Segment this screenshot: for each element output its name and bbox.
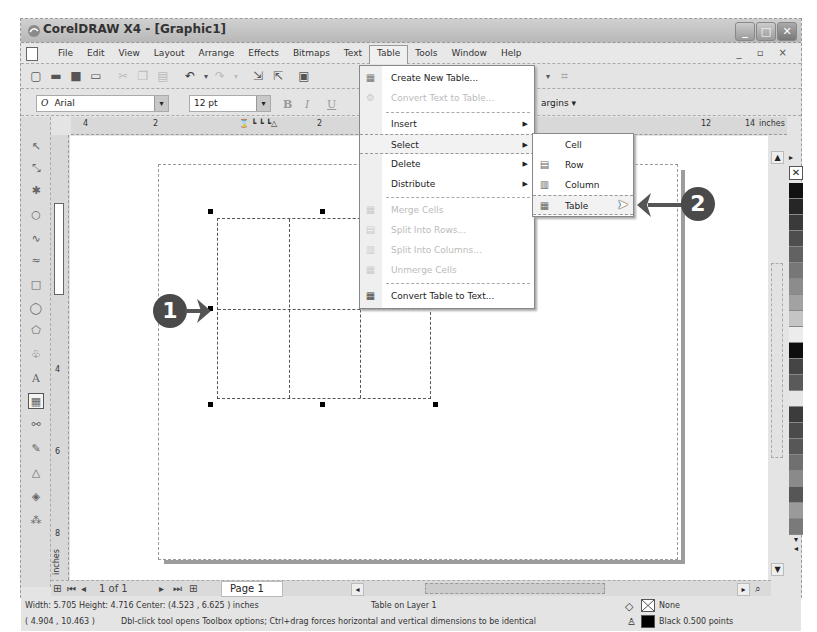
- menu-table[interactable]: Table: [369, 45, 408, 64]
- color-swatch[interactable]: [789, 215, 803, 231]
- palette-scroll-right-icon[interactable]: ▸: [789, 153, 803, 162]
- palette-expand-icon[interactable]: ◂: [789, 544, 803, 553]
- vertical-scrollbar[interactable]: ▲ ▼: [771, 151, 785, 579]
- rectangle-tool-icon[interactable]: □: [28, 277, 44, 293]
- menu-effects[interactable]: Effects: [241, 48, 286, 64]
- undo-icon[interactable]: ↶: [183, 70, 197, 83]
- font-name-dropdown[interactable]: OArial ▾: [36, 95, 169, 112]
- no-color-swatch[interactable]: ✕: [789, 166, 803, 180]
- undo-dropdown-icon[interactable]: ▾: [199, 70, 213, 83]
- color-swatch[interactable]: [789, 391, 803, 407]
- menu-edit[interactable]: Edit: [80, 48, 111, 64]
- new-icon[interactable]: ▢: [29, 70, 43, 83]
- margins-dropdown[interactable]: argins ▾: [541, 98, 576, 108]
- color-swatch[interactable]: [789, 407, 803, 423]
- export-icon[interactable]: ⇱: [271, 70, 285, 83]
- crop-tool-icon[interactable]: ✱: [28, 183, 44, 199]
- color-swatch[interactable]: [789, 455, 803, 471]
- menu-item-unmerge-cells[interactable]: ▦ Unmerge Cells: [360, 260, 534, 280]
- italic-button[interactable]: I: [305, 98, 309, 111]
- selection-handle[interactable]: [433, 402, 438, 407]
- scroll-left-icon[interactable]: ◂: [351, 583, 364, 596]
- color-swatch[interactable]: [789, 471, 803, 487]
- outline-color-swatch[interactable]: [641, 615, 655, 628]
- redo-dropdown-icon[interactable]: ▾: [229, 70, 243, 83]
- selection-handle[interactable]: [208, 402, 213, 407]
- prev-page-icon[interactable]: ◂: [81, 583, 86, 594]
- menu-item-split-into-rows[interactable]: ▤ Split Into Rows...: [360, 220, 534, 240]
- table-tool-icon[interactable]: ▦: [28, 393, 44, 409]
- chevron-down-icon[interactable]: ▾: [154, 96, 168, 111]
- vertical-scroll-thumb[interactable]: [771, 263, 783, 458]
- app-launcher-icon[interactable]: ▣: [297, 70, 311, 83]
- document-icon[interactable]: [26, 47, 38, 61]
- menu-tools[interactable]: Tools: [408, 48, 444, 64]
- scroll-up-icon[interactable]: ▲: [771, 151, 784, 164]
- color-swatch[interactable]: [789, 487, 803, 503]
- zoom-dropdown-icon[interactable]: ▾: [541, 70, 555, 83]
- page-tab[interactable]: Page 1: [221, 581, 283, 597]
- print-icon[interactable]: ▭: [89, 70, 103, 83]
- shape-tool-icon[interactable]: ⤡: [28, 161, 44, 177]
- scroll-down-icon[interactable]: ▼: [771, 563, 784, 576]
- submenu-item-cell[interactable]: Cell: [533, 135, 633, 155]
- fill-tool-icon[interactable]: ◈: [28, 489, 44, 505]
- cut-icon[interactable]: ✂: [116, 70, 130, 83]
- chevron-down-icon[interactable]: ▾: [256, 96, 270, 111]
- maximize-button[interactable]: □: [756, 22, 776, 41]
- minimize-button[interactable]: _: [735, 22, 755, 41]
- eyedropper-tool-icon[interactable]: ✎: [28, 441, 44, 457]
- vertical-ruler[interactable]: 4 6 8 inches: [51, 135, 69, 580]
- selection-handle[interactable]: [320, 209, 325, 214]
- freehand-tool-icon[interactable]: ∿: [28, 231, 44, 247]
- color-swatch[interactable]: [789, 519, 803, 535]
- last-page-icon[interactable]: ⏭: [173, 583, 182, 595]
- color-swatch[interactable]: [789, 247, 803, 263]
- menu-bitmaps[interactable]: Bitmaps: [286, 48, 337, 64]
- menu-view[interactable]: View: [112, 48, 147, 64]
- color-swatch[interactable]: [789, 359, 803, 375]
- bold-button[interactable]: B: [283, 98, 292, 111]
- zoom-tool-icon[interactable]: ○: [28, 207, 44, 223]
- scroll-right-icon[interactable]: ▸: [737, 583, 750, 596]
- next-page-icon[interactable]: ▸: [159, 583, 164, 594]
- submenu-item-row[interactable]: ▤ Row: [533, 155, 633, 175]
- smart-fill-tool-icon[interactable]: ≈: [28, 253, 44, 269]
- color-swatch[interactable]: [789, 183, 803, 199]
- menu-file[interactable]: File: [51, 48, 80, 64]
- color-swatch[interactable]: [789, 343, 803, 359]
- color-swatch[interactable]: [789, 295, 803, 311]
- selection-handle[interactable]: [320, 402, 325, 407]
- open-icon[interactable]: ▬: [49, 70, 63, 83]
- color-swatch[interactable]: [789, 279, 803, 295]
- menu-item-select[interactable]: Select ▶: [360, 134, 534, 154]
- save-icon[interactable]: ■: [69, 70, 83, 83]
- polygon-tool-icon[interactable]: ⬠: [28, 323, 44, 339]
- menu-item-merge-cells[interactable]: ▦ Merge Cells: [360, 200, 534, 220]
- tab-stops-marker[interactable]: ⌛ ┗ ┗ ┗△: [239, 119, 277, 128]
- basic-shapes-tool-icon[interactable]: ♧: [28, 347, 44, 363]
- menu-item-create-new-table[interactable]: ▦ Create New Table...: [360, 68, 534, 88]
- import-icon[interactable]: ⇲: [251, 70, 265, 83]
- color-swatch[interactable]: [789, 503, 803, 519]
- selection-handle[interactable]: [208, 209, 213, 214]
- add-page-after-icon[interactable]: ⊞: [189, 583, 197, 594]
- menu-window[interactable]: Window: [444, 48, 494, 64]
- font-size-dropdown[interactable]: 12 pt ▾: [189, 95, 271, 112]
- menu-help[interactable]: Help: [494, 48, 529, 64]
- color-swatch[interactable]: [789, 423, 803, 439]
- text-tool-icon[interactable]: A: [28, 371, 44, 387]
- close-button[interactable]: ✕: [777, 22, 797, 41]
- color-swatch[interactable]: [789, 327, 803, 343]
- horizontal-scroll-thumb[interactable]: [425, 583, 605, 594]
- document-window-controls[interactable]: _ ▫ ×: [736, 47, 793, 58]
- ellipse-tool-icon[interactable]: ◯: [28, 301, 44, 317]
- menu-item-split-into-columns[interactable]: ▥ Split Into Columns...: [360, 240, 534, 260]
- color-swatch[interactable]: [789, 311, 803, 327]
- color-swatch[interactable]: [789, 375, 803, 391]
- palette-scroll-down-icon[interactable]: ▾: [789, 535, 803, 544]
- menu-item-delete[interactable]: Delete ▶: [360, 154, 534, 174]
- first-page-icon[interactable]: ⏮: [67, 583, 76, 595]
- outline-tool-icon[interactable]: △: [28, 465, 44, 481]
- menu-arrange[interactable]: Arrange: [191, 48, 241, 64]
